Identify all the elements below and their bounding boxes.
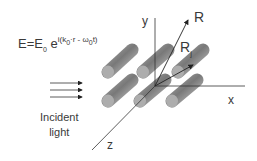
wave-equation: E=E0 ei(k0·r - ω0t) (18, 35, 98, 53)
z-axis-label: z (107, 138, 113, 152)
exp-mid: ·r - ω (70, 35, 89, 44)
incident-line2: light (40, 125, 79, 140)
diagram-canvas (0, 0, 257, 161)
rj-main: R (180, 39, 190, 55)
rj-sub: j (190, 49, 192, 58)
formula-base: e (47, 36, 58, 51)
x-axis-label: x (228, 93, 234, 107)
y-axis-label: y (142, 14, 148, 28)
incident-line1: Incident (40, 110, 79, 125)
cylinder-array (102, 50, 203, 108)
exp-open: i(k (58, 35, 66, 44)
rj-vector-label: Rj (180, 39, 192, 58)
exp-close: t) (93, 35, 98, 44)
formula-exponent: i(k0·r - ω0t) (58, 35, 98, 44)
cylinder (102, 80, 132, 108)
incident-light-label: Incident light (40, 110, 79, 140)
r-vector-label: R (194, 9, 204, 25)
cylinder (134, 80, 165, 108)
cylinder (166, 80, 197, 108)
formula-lhs: E=E (18, 36, 43, 51)
incident-light-arrows (50, 83, 82, 97)
cylinder (102, 50, 132, 79)
